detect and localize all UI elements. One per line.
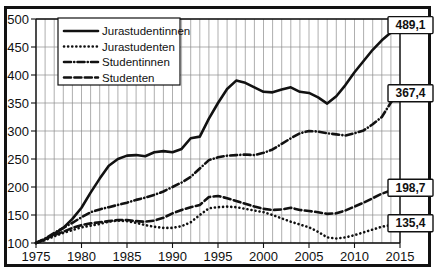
end-value-label: 367,4: [395, 86, 425, 100]
end-value-label: 489,1: [395, 18, 425, 32]
x-tick-label: 2005: [295, 249, 324, 264]
y-tick-label: 150: [7, 208, 29, 223]
y-tick-label: 500: [7, 12, 29, 27]
x-tick-label: 2000: [249, 249, 278, 264]
end-value-label: 135,4: [395, 216, 425, 230]
line-chart-svg: 100150200250300350400450500 197519801985…: [0, 0, 435, 279]
y-tick-label: 350: [7, 96, 29, 111]
y-tick-label: 300: [7, 124, 29, 139]
x-tick-labels: 197519801985199019952000200520102015: [22, 249, 415, 264]
chart-canvas: 100150200250300350400450500 197519801985…: [0, 0, 435, 279]
legend-label: Studenten: [102, 72, 154, 84]
y-tick-label: 450: [7, 40, 29, 55]
y-tick-label: 250: [7, 152, 29, 167]
x-tick-label: 2015: [386, 249, 415, 264]
x-tick-label: 1990: [158, 249, 187, 264]
legend-label: Jurastudentinnen: [102, 25, 190, 37]
chart-legend: JurastudentinnenJurastudentenStudentinne…: [58, 18, 190, 85]
chart-figure: 100150200250300350400450500 197519801985…: [0, 0, 435, 279]
x-tick-label: 1975: [22, 249, 51, 264]
legend-label: Studentinnen: [102, 56, 170, 68]
x-tick-label: 2010: [340, 249, 369, 264]
legend-label: Jurastudenten: [102, 41, 175, 53]
x-tick-label: 1995: [204, 249, 233, 264]
y-tick-label: 200: [7, 180, 29, 195]
end-value-label: 198,7: [395, 181, 425, 195]
y-tick-label: 400: [7, 68, 29, 83]
y-tick-labels: 100150200250300350400450500: [7, 12, 29, 251]
x-tick-label: 1985: [113, 249, 142, 264]
end-value-labels: 489,1367,4198,7135,4: [388, 17, 433, 232]
x-tick-label: 1980: [67, 249, 96, 264]
